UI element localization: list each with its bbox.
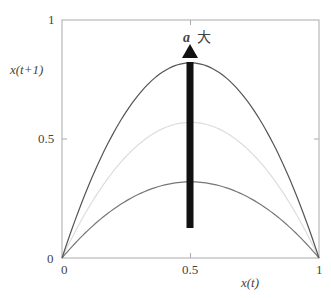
arrow-shaft (187, 62, 194, 228)
x-axis-label: x(t) (241, 275, 259, 291)
arrow-var-label: a (183, 30, 190, 45)
y-tick-label-0: 0 (47, 251, 54, 267)
arrow-text-label: 大 (197, 29, 211, 45)
x-tick-label-1: 1 (316, 262, 323, 278)
x-tick-label-05: 0.5 (182, 262, 198, 278)
y-axis-label: x(t+1) (10, 62, 43, 78)
y-tick-label-1: 1 (48, 12, 55, 28)
x-tick-label-0: 0 (61, 262, 68, 278)
arrow-head-icon (182, 44, 198, 58)
arrow-annotation: a 大 (183, 26, 211, 46)
y-tick-label-05: 0.5 (38, 131, 54, 147)
